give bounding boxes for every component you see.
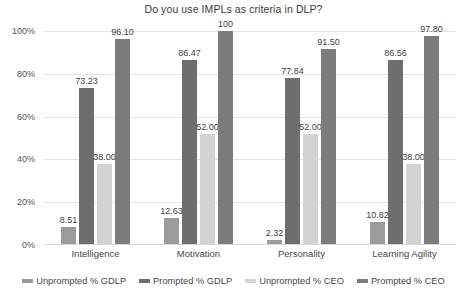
bar-value-label: 86.56: [384, 49, 407, 58]
legend-label: Prompted % GDLP: [153, 276, 232, 286]
bar-item[interactable]: 52.00: [200, 31, 215, 245]
chart-title: Do you use IMPLs as criteria in DLP?: [0, 3, 467, 15]
bar-value-label: 86.47: [178, 49, 201, 58]
bar-item[interactable]: 86.56: [388, 31, 403, 245]
bar[interactable]: [321, 49, 336, 245]
y-axis-tick: 60%: [17, 112, 35, 122]
legend-label: Prompted % CEO: [371, 276, 445, 286]
y-axis-tick: 40%: [17, 154, 35, 164]
bar-chart: Do you use IMPLs as criteria in DLP? 100…: [0, 0, 467, 295]
bar[interactable]: [285, 78, 300, 245]
legend-swatch-icon: [357, 279, 368, 283]
bar-set: 10.8286.5638.0097.80: [353, 31, 456, 245]
bar-value-label: 77.84: [281, 67, 304, 76]
bar-set: 2.3277.8452.0091.50: [250, 31, 353, 245]
bar-item[interactable]: 52.00: [303, 31, 318, 245]
bar-item[interactable]: 38.00: [406, 31, 421, 245]
y-axis-labels: 100%80%60%40%20%0%: [0, 31, 40, 245]
legend-item[interactable]: Unprompted % CEO: [245, 276, 344, 286]
bar-item[interactable]: 86.47: [182, 31, 197, 245]
legend-item[interactable]: Unprompted % GDLP: [22, 276, 126, 286]
legend-swatch-icon: [139, 279, 150, 283]
bar[interactable]: [115, 39, 130, 245]
bar-item[interactable]: 10.82: [370, 31, 385, 245]
bar[interactable]: [218, 31, 233, 245]
bar-value-label: 96.10: [111, 28, 134, 37]
bar-value-label: 38.00: [93, 153, 116, 162]
y-axis-tick: 100%: [12, 26, 35, 36]
bar-item[interactable]: 97.80: [424, 31, 439, 245]
bar[interactable]: [61, 227, 76, 245]
bar-item[interactable]: 91.50: [321, 31, 336, 245]
legend-swatch-icon: [22, 279, 33, 283]
bar-value-label: 97.80: [420, 25, 443, 34]
legend-label: Unprompted % CEO: [259, 276, 344, 286]
bar-group: 2.3277.8452.0091.50: [250, 31, 353, 245]
bar-value-label: 91.50: [317, 38, 340, 47]
bar[interactable]: [79, 88, 94, 245]
bar-set: 8.5173.2338.0096.10: [44, 31, 147, 245]
legend-item[interactable]: Prompted % GDLP: [139, 276, 232, 286]
bar[interactable]: [303, 134, 318, 245]
y-axis-tick: 20%: [17, 197, 35, 207]
bar-item[interactable]: 96.10: [115, 31, 130, 245]
bar[interactable]: [182, 60, 197, 245]
legend-label: Unprompted % GDLP: [36, 276, 126, 286]
bar-set: 12.6386.4752.00100: [147, 31, 250, 245]
x-axis-category-label: Personality: [250, 248, 353, 259]
x-axis-category-label: Motivation: [147, 248, 250, 259]
bar-value-label: 38.00: [402, 153, 425, 162]
bar-value-label: 2.32: [266, 229, 284, 238]
plot-area: 8.5173.2338.0096.1012.6386.4752.001002.3…: [44, 31, 456, 245]
legend-item[interactable]: Prompted % CEO: [357, 276, 445, 286]
bar-item[interactable]: 12.63: [164, 31, 179, 245]
x-axis-category-label: Intelligence: [44, 248, 147, 259]
bar-value-label: 12.63: [160, 207, 183, 216]
legend-swatch-icon: [245, 279, 256, 283]
bar-groups: 8.5173.2338.0096.1012.6386.4752.001002.3…: [44, 31, 456, 245]
bar-value-label: 52.00: [196, 123, 219, 132]
x-axis-line: [44, 244, 456, 245]
bar-item[interactable]: 2.32: [267, 31, 282, 245]
bar[interactable]: [388, 60, 403, 245]
bar-value-label: 73.23: [75, 77, 98, 86]
bar-group: 8.5173.2338.0096.10: [44, 31, 147, 245]
bar-item[interactable]: 73.23: [79, 31, 94, 245]
bar[interactable]: [424, 36, 439, 245]
bar[interactable]: [164, 218, 179, 245]
bar-item[interactable]: 38.00: [97, 31, 112, 245]
bar-value-label: 8.51: [60, 216, 78, 225]
bar-item[interactable]: 100: [218, 31, 233, 245]
bar[interactable]: [97, 164, 112, 245]
bar-item[interactable]: 8.51: [61, 31, 76, 245]
bar[interactable]: [370, 222, 385, 245]
x-axis-category-label: Learning Agility: [353, 248, 456, 259]
bar-group: 10.8286.5638.0097.80: [353, 31, 456, 245]
bar-item[interactable]: 77.84: [285, 31, 300, 245]
bar-value-label: 10.82: [366, 211, 389, 220]
bar[interactable]: [200, 134, 215, 245]
chart-legend: Unprompted % GDLPPrompted % GDLPUnprompt…: [0, 276, 467, 286]
bar-value-label: 100: [218, 20, 233, 29]
bar[interactable]: [406, 164, 421, 245]
bar-value-label: 52.00: [299, 123, 322, 132]
y-axis-tick: 0%: [22, 240, 35, 250]
y-axis-tick: 80%: [17, 69, 35, 79]
bar-group: 12.6386.4752.00100: [147, 31, 250, 245]
x-axis-labels: IntelligenceMotivationPersonalityLearnin…: [44, 248, 456, 259]
